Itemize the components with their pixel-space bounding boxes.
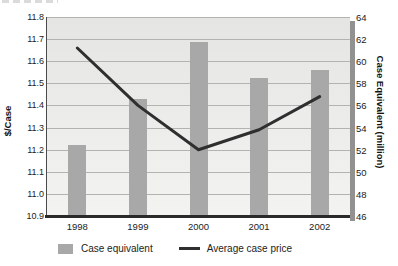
legend: Case equivalent Average case price	[58, 243, 292, 254]
legend-item-case-equivalent: Case equivalent	[58, 243, 153, 254]
right-axis-tick-label: 62	[356, 34, 382, 45]
legend-label-average-case-price: Average case price	[207, 243, 292, 254]
left-axis-tick-label: 11.6	[8, 56, 44, 67]
bar-1998	[68, 145, 86, 216]
right-axis-title: Case Equivalent (million)	[373, 47, 387, 177]
left-axis-tick-label: 11.1	[8, 167, 44, 178]
bar-swatch-icon	[58, 244, 73, 254]
right-axis-tick-label: 64	[356, 12, 382, 23]
cropped-text-remnant	[2, 0, 58, 3]
bar-2002	[311, 70, 329, 216]
left-axis-tick-label: 11.0	[8, 189, 44, 200]
x-axis-label: 1998	[55, 221, 99, 233]
bar-2000	[190, 42, 208, 216]
legend-label-case-equivalent: Case equivalent	[81, 243, 153, 254]
x-axis-label: 2001	[237, 221, 281, 233]
gridline	[47, 39, 350, 40]
left-axis-title: $/Case	[1, 89, 15, 153]
chart-canvas: 11.811.711.611.511.411.311.211.111.010.9…	[0, 0, 398, 266]
x-axis-label: 2002	[298, 221, 342, 233]
right-axis-tick-label: 48	[356, 189, 382, 200]
bar-2001	[250, 78, 268, 216]
left-axis-tick-label: 11.8	[8, 12, 44, 23]
gridline	[47, 17, 350, 18]
x-axis-label: 2000	[177, 221, 221, 233]
left-axis-tick-label: 11.5	[8, 78, 44, 89]
bar-1999	[129, 99, 147, 216]
legend-item-average-case-price: Average case price	[179, 243, 292, 254]
left-axis-tick-label: 10.9	[8, 211, 44, 222]
left-axis-tick-label: 11.7	[8, 34, 44, 45]
plot-right-shadow	[350, 21, 355, 221]
left-axis-line	[46, 17, 47, 216]
right-axis-tick-label: 46	[356, 211, 382, 222]
bottom-axis-line	[45, 215, 352, 218]
x-axis-label: 1999	[116, 221, 160, 233]
line-swatch-icon	[179, 247, 200, 250]
